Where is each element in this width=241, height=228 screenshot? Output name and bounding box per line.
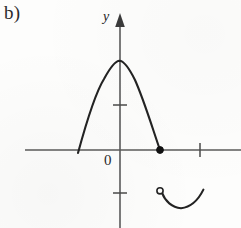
figure-container: b) y 0	[0, 0, 241, 228]
open-point-marker	[157, 188, 163, 194]
parabola-curve	[78, 61, 160, 153]
y-axis-arrow-icon	[115, 13, 125, 27]
lower-arc-curve	[162, 190, 203, 209]
origin-label: 0	[104, 152, 112, 168]
y-axis-label: y	[103, 10, 109, 24]
graph-canvas	[0, 0, 241, 228]
filled-point-marker	[157, 147, 164, 154]
